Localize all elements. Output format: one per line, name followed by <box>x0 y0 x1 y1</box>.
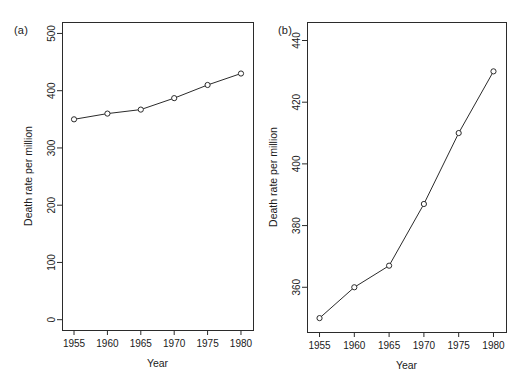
y-tick-label: 100 <box>47 254 58 271</box>
y-tick-label: 440 <box>292 32 303 49</box>
series-line <box>74 74 241 120</box>
x-tick-label: 1955 <box>63 338 86 349</box>
figure-root: (a) 195519601965197019751980010020030040… <box>0 0 531 390</box>
data-point <box>138 107 143 112</box>
x-axis-title: Year <box>147 357 169 369</box>
x-axis-title: Year <box>396 359 418 371</box>
x-tick-label: 1980 <box>482 340 505 351</box>
series-line <box>320 71 494 318</box>
y-axis-title: Death rate per million <box>22 126 34 226</box>
y-tick-label: 500 <box>47 25 58 42</box>
panel-b: (b) 195519601965197019751980360380400420… <box>265 0 531 390</box>
x-tick-label: 1975 <box>448 340 471 351</box>
y-tick-label: 400 <box>292 155 303 172</box>
x-tick-label: 1960 <box>96 338 119 349</box>
y-tick-label: 300 <box>47 139 58 156</box>
data-point <box>205 82 210 87</box>
data-point <box>105 111 110 116</box>
x-tick-label: 1965 <box>130 338 153 349</box>
y-axis-title: Death rate per million <box>267 127 279 227</box>
x-tick-label: 1965 <box>378 340 401 351</box>
y-tick-label: 380 <box>292 217 303 234</box>
panel-b-plot: 195519601965197019751980360380400420440Y… <box>265 0 531 390</box>
x-tick-label: 1970 <box>163 338 186 349</box>
plot-frame <box>308 23 507 333</box>
data-point <box>387 263 392 268</box>
x-tick-label: 1970 <box>413 340 436 351</box>
data-point <box>421 201 426 206</box>
y-tick-label: 200 <box>47 196 58 213</box>
data-point <box>71 117 76 122</box>
y-tick-label: 360 <box>292 278 303 295</box>
y-tick-label: 400 <box>47 82 58 99</box>
x-tick-label: 1980 <box>230 338 253 349</box>
panel-a: (a) 195519601965197019751980010020030040… <box>0 0 266 390</box>
x-tick-label: 1960 <box>343 340 366 351</box>
plot-frame <box>63 23 254 331</box>
data-point <box>172 96 177 101</box>
x-tick-label: 1955 <box>308 340 331 351</box>
data-point <box>317 316 322 321</box>
y-tick-label: 420 <box>292 93 303 110</box>
data-point <box>456 130 461 135</box>
y-tick-label: 0 <box>47 316 58 322</box>
data-point <box>491 69 496 74</box>
x-tick-label: 1975 <box>196 338 219 349</box>
data-point <box>352 285 357 290</box>
data-point <box>238 71 243 76</box>
panel-a-plot: 1955196019651970197519800100200300400500… <box>0 0 266 390</box>
